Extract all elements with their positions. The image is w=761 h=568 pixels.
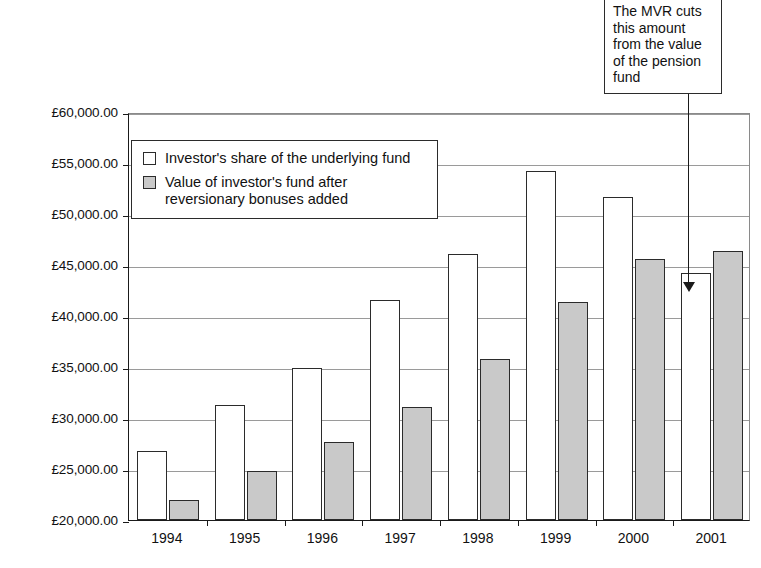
annotation-arrow-icon xyxy=(683,282,695,292)
y-axis-tick-label: £20,000.00 xyxy=(51,514,118,527)
y-axis-tick-label: £60,000.00 xyxy=(51,106,118,119)
y-axis-tick-mark xyxy=(123,369,129,370)
bar xyxy=(448,254,478,520)
y-axis-tick-label: £40,000.00 xyxy=(51,310,118,323)
legend-item: Investor's share of the underlying fund xyxy=(143,150,426,167)
bar xyxy=(292,368,322,520)
bar xyxy=(480,359,510,520)
annotation-callout: The MVR cuts this amount from the value … xyxy=(604,0,722,94)
y-axis-tick-mark xyxy=(123,318,129,319)
legend-swatch-icon xyxy=(143,176,156,189)
y-axis-tick-mark xyxy=(123,420,129,421)
y-axis-tick-label: £45,000.00 xyxy=(51,259,118,272)
x-axis-tick-label: 1996 xyxy=(292,531,352,545)
bar xyxy=(603,197,633,520)
legend-item: Value of investor's fund after reversion… xyxy=(143,174,426,208)
x-axis-tick-label: 1994 xyxy=(137,531,197,545)
chart-legend: Investor's share of the underlying fund … xyxy=(131,140,438,219)
x-axis-tick-label: 2000 xyxy=(603,531,663,545)
bar xyxy=(402,407,432,520)
x-axis-tick-mark xyxy=(285,520,286,526)
bar xyxy=(635,259,665,520)
gridline xyxy=(129,114,749,115)
y-axis-tick-mark xyxy=(123,165,129,166)
bar xyxy=(215,405,245,520)
y-axis-tick-label: £55,000.00 xyxy=(51,157,118,170)
bar xyxy=(526,171,556,520)
y-axis-tick-mark xyxy=(123,471,129,472)
x-axis-tick-label: 1998 xyxy=(448,531,508,545)
x-axis-tick-mark xyxy=(362,520,363,526)
y-axis-tick-mark xyxy=(123,216,129,217)
x-axis-tick-label: 1995 xyxy=(215,531,275,545)
x-axis-tick-mark xyxy=(207,520,208,526)
annotation-text: The MVR cuts this amount from the value … xyxy=(613,3,713,86)
legend-swatch-icon xyxy=(143,152,156,165)
x-axis-tick-label: 2001 xyxy=(681,531,741,545)
bar xyxy=(169,500,199,520)
bar xyxy=(324,442,354,520)
y-axis-tick-label: £50,000.00 xyxy=(51,208,118,221)
x-axis-tick-mark xyxy=(673,520,674,526)
y-axis-tick-mark xyxy=(123,114,129,115)
y-axis-tick-label: £30,000.00 xyxy=(51,412,118,425)
bar xyxy=(137,451,167,520)
legend-item-label: Value of investor's fund after reversion… xyxy=(165,174,426,208)
y-axis-tick-mark xyxy=(123,522,129,523)
legend-item-label: Investor's share of the underlying fund xyxy=(165,150,410,167)
bar xyxy=(370,300,400,520)
x-axis-tick-mark xyxy=(596,520,597,526)
y-axis-tick-mark xyxy=(123,267,129,268)
annotation-leader-line xyxy=(688,88,689,286)
bar xyxy=(681,273,711,520)
x-axis-tick-label: 1999 xyxy=(526,531,586,545)
bar xyxy=(713,251,743,520)
chart-canvas: £60,000.00 £55,000.00 £50,000.00 £45,000… xyxy=(0,0,761,568)
x-axis-tick-mark xyxy=(440,520,441,526)
x-axis-tick-label: 1997 xyxy=(370,531,430,545)
y-axis-tick-label: £35,000.00 xyxy=(51,361,118,374)
x-axis-tick-mark xyxy=(518,520,519,526)
bar xyxy=(558,302,588,520)
bar xyxy=(247,471,277,520)
y-axis-tick-label: £25,000.00 xyxy=(51,463,118,476)
